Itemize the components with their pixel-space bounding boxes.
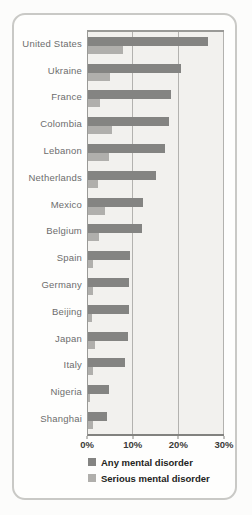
legend-label: Any mental disorder (101, 457, 193, 468)
x-tick-label: 0% (80, 439, 94, 450)
category-label: Ukraine (14, 57, 87, 84)
x-tick-label: 20% (169, 439, 188, 450)
bar-any-mental-disorder (88, 90, 171, 99)
category-labels-column: United StatesUkraineFranceColombiaLebano… (14, 30, 87, 436)
bar-row (88, 59, 224, 86)
chart-card: United StatesUkraineFranceColombiaLebano… (12, 13, 237, 500)
category-label: Netherlands (14, 164, 87, 191)
bar-any-mental-disorder (88, 412, 107, 421)
bar-row (88, 407, 224, 434)
category-label: Nigeria (14, 378, 87, 405)
category-label: Germany (14, 271, 87, 298)
x-axis: 0%10%20%30% (87, 436, 224, 453)
bar-chart: United StatesUkraineFranceColombiaLebano… (14, 30, 224, 436)
bar-any-mental-disorder (88, 64, 181, 73)
bar-any-mental-disorder (88, 251, 130, 260)
bar-serious-mental-disorder (88, 99, 100, 107)
bar-any-mental-disorder (88, 305, 129, 314)
x-tick-label: 30% (214, 439, 233, 450)
bar-any-mental-disorder (88, 385, 109, 394)
bar-serious-mental-disorder (88, 153, 109, 161)
bar-row (88, 273, 224, 300)
bar-any-mental-disorder (88, 278, 129, 287)
bar-any-mental-disorder (88, 117, 169, 126)
page: United StatesUkraineFranceColombiaLebano… (0, 0, 252, 515)
bar-serious-mental-disorder (88, 421, 93, 429)
category-label: Belgium (14, 218, 87, 245)
legend: Any mental disorder Serious mental disor… (88, 457, 235, 484)
legend-swatch-serious-icon (88, 474, 96, 482)
bar-serious-mental-disorder (88, 126, 112, 134)
bar-row (88, 246, 224, 273)
bar-serious-mental-disorder (88, 260, 93, 268)
bar-serious-mental-disorder (88, 367, 93, 375)
category-label: France (14, 84, 87, 111)
bar-any-mental-disorder (88, 37, 208, 46)
bar-rows (88, 32, 224, 434)
category-label: Spain (14, 244, 87, 271)
bar-row (88, 380, 224, 407)
bar-serious-mental-disorder (88, 314, 92, 322)
bar-serious-mental-disorder (88, 46, 123, 54)
category-label: Japan (14, 325, 87, 352)
bar-row (88, 220, 224, 247)
category-label: Beijing (14, 298, 87, 325)
x-tick-label: 10% (123, 439, 142, 450)
bar-row (88, 166, 224, 193)
bar-serious-mental-disorder (88, 73, 110, 81)
bar-any-mental-disorder (88, 332, 128, 341)
category-label: United States (14, 30, 87, 57)
category-label: Lebanon (14, 137, 87, 164)
bar-serious-mental-disorder (88, 233, 99, 241)
bar-row (88, 193, 224, 220)
legend-item-any-mental-disorder: Any mental disorder (88, 457, 235, 468)
bar-row (88, 86, 224, 113)
bar-row (88, 327, 224, 354)
bar-row (88, 112, 224, 139)
legend-label: Serious mental disorder (101, 473, 210, 484)
bar-serious-mental-disorder (88, 207, 105, 215)
bar-serious-mental-disorder (88, 394, 90, 402)
bar-row (88, 139, 224, 166)
bar-serious-mental-disorder (88, 341, 95, 349)
bar-row (88, 32, 224, 59)
bar-serious-mental-disorder (88, 287, 93, 295)
bar-any-mental-disorder (88, 358, 125, 367)
bar-row (88, 300, 224, 327)
bar-any-mental-disorder (88, 144, 165, 153)
bar-row (88, 354, 224, 381)
bar-any-mental-disorder (88, 224, 142, 233)
category-label: Mexico (14, 191, 87, 218)
bar-any-mental-disorder (88, 198, 143, 207)
category-label: Colombia (14, 110, 87, 137)
plot-area (87, 30, 224, 436)
category-label: Italy (14, 352, 87, 379)
bar-any-mental-disorder (88, 171, 156, 180)
bar-serious-mental-disorder (88, 180, 98, 188)
legend-swatch-any-icon (88, 458, 96, 466)
legend-item-serious-mental-disorder: Serious mental disorder (88, 473, 235, 484)
category-label: Shanghai (14, 405, 87, 432)
